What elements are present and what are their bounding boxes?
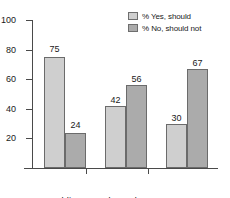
y-tick-label-40: 40 xyxy=(0,105,16,114)
bar-republicans-yes[interactable] xyxy=(44,57,65,168)
bars-layer xyxy=(32,20,220,168)
bar-value-republicans-no: 24 xyxy=(65,121,86,130)
bar-chart: % Yes, should % No, should not 100 80 60… xyxy=(0,0,230,198)
x-tick-1 xyxy=(86,168,87,174)
bar-value-democrats-yes: 30 xyxy=(166,114,187,123)
bar-democrats-no[interactable] xyxy=(187,69,208,168)
y-tick-label-100: 100 xyxy=(0,16,16,25)
plot-area: 100 80 60 40 20 75 24 42 56 30 67 Republ… xyxy=(32,20,220,168)
bar-independents-yes[interactable] xyxy=(105,106,126,168)
bar-value-democrats-no: 67 xyxy=(187,59,208,68)
bar-independents-no[interactable] xyxy=(126,85,147,168)
x-tick-2 xyxy=(148,168,149,174)
bar-value-independents-yes: 42 xyxy=(105,96,126,105)
bar-value-republicans-yes: 75 xyxy=(44,45,65,54)
bar-value-independents-no: 56 xyxy=(126,75,147,84)
y-tick-label-80: 80 xyxy=(0,46,16,55)
x-label-democrats: Democrats xyxy=(148,196,224,198)
legend-swatch-yes-icon xyxy=(128,12,138,20)
y-tick-label-20: 20 xyxy=(0,134,16,143)
x-axis-line xyxy=(24,168,218,169)
bar-republicans-no[interactable] xyxy=(65,133,86,169)
y-tick-label-60: 60 xyxy=(0,75,16,84)
bar-democrats-yes[interactable] xyxy=(166,124,187,168)
